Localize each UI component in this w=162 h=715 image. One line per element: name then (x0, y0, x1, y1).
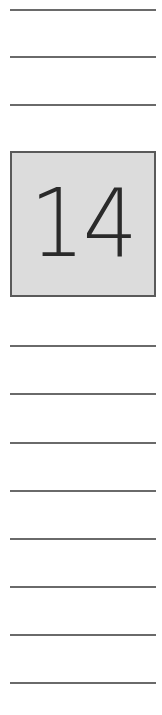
rule-line-11 (10, 682, 156, 684)
rule-line-10 (10, 634, 156, 636)
rule-line-2 (10, 56, 156, 58)
rule-line-7 (10, 490, 156, 492)
rule-line-6 (10, 442, 156, 444)
page-number-box: 14 (10, 151, 156, 297)
rule-line-5 (10, 393, 156, 395)
rule-line-9 (10, 586, 156, 588)
page-number: 14 (30, 177, 136, 271)
rule-line-1 (10, 9, 156, 11)
rule-line-4 (10, 345, 156, 347)
rule-line-3 (10, 104, 156, 106)
rule-line-8 (10, 538, 156, 540)
